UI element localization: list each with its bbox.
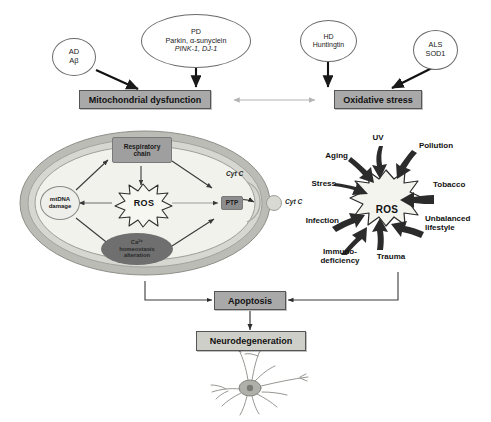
mtdna-damage-line-2: damage — [49, 203, 72, 210]
disease-node-als[interactable]: ALS SOD1 — [413, 30, 458, 70]
respiratory-chain-box[interactable]: Respiratory chain — [112, 137, 172, 163]
process-box-oxidative-stress[interactable]: Oxidative stress — [334, 90, 422, 109]
process-box-neurodegeneration[interactable]: Neurodegeneration — [196, 331, 306, 351]
disease-node-hd-line-1: HD — [323, 33, 333, 41]
ros-factor-aging: Aging — [306, 152, 348, 161]
disease-node-hd-line-2: Huntingtin — [313, 41, 345, 49]
ros-factor-unbalanced-lifestyle: Unbalanced lifestyle — [425, 215, 487, 233]
process-box-apoptosis[interactable]: Apoptosis — [214, 291, 286, 310]
calcium-homeostasis-oval[interactable]: Ca²⁺ homeostasis alteration — [101, 233, 173, 265]
ros-factor-infection: Infection — [289, 217, 339, 226]
disease-node-pd-line-3: PINK-1, DJ-1 — [175, 45, 217, 53]
ros-label-mito: ROS — [126, 198, 162, 209]
ros-factor-tobacco: Tobacco — [433, 181, 485, 190]
disease-node-als-line-2: SOD1 — [426, 50, 446, 59]
disease-node-ad[interactable]: AD Aβ — [52, 38, 96, 76]
mtdna-damage-circle[interactable]: mtDNA damage — [40, 186, 80, 220]
ros-factor-trauma: Trauma — [368, 253, 414, 262]
ros-factor-immunodeficiency: Immuno- deficiency — [312, 248, 368, 266]
disease-node-ad-line-2: Aβ — [69, 57, 78, 66]
respiratory-chain-line-2: chain — [133, 150, 150, 157]
ros-factor-stress: Stress — [294, 180, 336, 189]
cyt-c-particle — [267, 196, 282, 211]
mtdna-damage-line-1: mtDNA — [50, 196, 70, 203]
cyt-c-label-outer: Cyt C — [285, 198, 319, 205]
diagram-canvas: AD Aβ PD Parkin, α-sunyclein PINK-1, DJ-… — [0, 0, 491, 422]
cyt-c-label-inner: Cyt C — [226, 170, 260, 177]
respiratory-chain-line-1: Respiratory — [124, 143, 161, 150]
ros-factor-uv: UV — [358, 134, 398, 143]
process-box-mitochondrial-dysfunction[interactable]: Mitochondrial dysfunction — [79, 90, 211, 109]
disease-node-pd[interactable]: PD Parkin, α-sunyclein PINK-1, DJ-1 — [141, 14, 251, 68]
disease-node-hd[interactable]: HD Huntingtin — [300, 20, 357, 62]
ros-factor-pollution: Pollution — [408, 142, 464, 151]
top-arrows — [96, 62, 432, 89]
ros-label-burst: ROS — [368, 204, 406, 216]
ptp-box[interactable]: PTP — [221, 196, 243, 210]
calcium-line-3: alteration — [124, 252, 150, 258]
